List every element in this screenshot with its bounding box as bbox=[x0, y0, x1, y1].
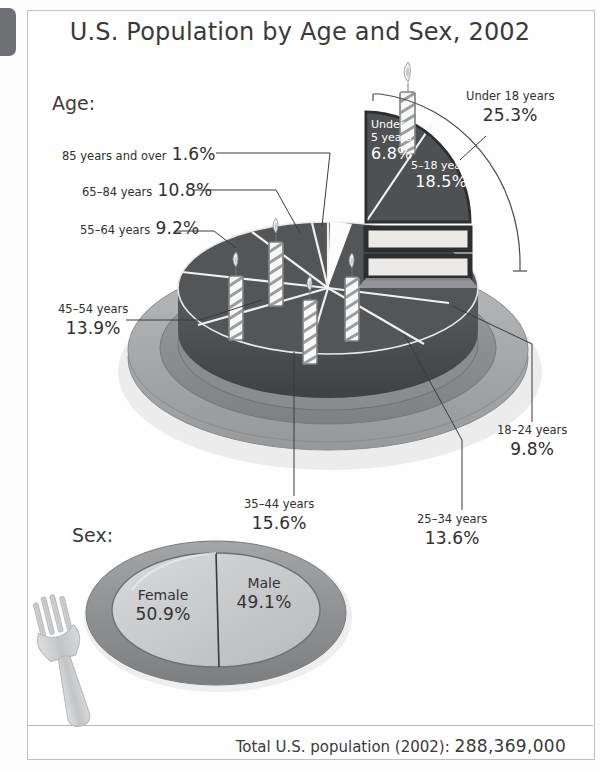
slice-label-5-18-years: 5–18 years 18.5% bbox=[411, 160, 471, 191]
pie-label: Female bbox=[118, 587, 208, 604]
slice-label-line2: 5 years bbox=[371, 132, 412, 145]
page-title: U.S. Population by Age and Sex, 2002 bbox=[0, 18, 600, 46]
total-label: Total U.S. population (2002): bbox=[236, 738, 450, 756]
page-root: U.S. Population by Age and Sex, 2002 Age… bbox=[0, 0, 600, 772]
pie-label-male: Male 49.1% bbox=[222, 575, 306, 612]
callout-85-years-and-over: 85 years and over 1.6% bbox=[62, 144, 216, 165]
sex-section-label: Sex: bbox=[72, 524, 113, 546]
callout-label: 45–54 years bbox=[58, 303, 128, 317]
callout-value: 25.3% bbox=[466, 105, 554, 125]
callout-35-44-years: 35–44 years 15.6% bbox=[244, 498, 314, 533]
callout-label: 18–24 years bbox=[497, 424, 567, 438]
callout-value: 9.2% bbox=[155, 218, 199, 238]
callout-value: 13.9% bbox=[58, 318, 128, 338]
slice-value: 18.5% bbox=[411, 173, 471, 192]
callout-45-54-years: 45–54 years 13.9% bbox=[58, 303, 128, 338]
callout-value: 15.6% bbox=[244, 513, 314, 533]
callout-label: 25–34 years bbox=[417, 513, 487, 527]
callout-label: 35–44 years bbox=[244, 498, 314, 512]
pie-value: 50.9% bbox=[118, 604, 208, 624]
callout-label: 85 years and over bbox=[62, 149, 167, 163]
total-population-line: Total U.S. population (2002): 288,369,00… bbox=[236, 736, 566, 756]
age-section-label: Age: bbox=[52, 92, 95, 114]
slice-label-under-5-years: Under 5 years 6.8% bbox=[371, 119, 412, 163]
callout-label: Under 18 years bbox=[466, 90, 554, 104]
callout-value: 1.6% bbox=[172, 144, 216, 164]
footer-divider bbox=[27, 725, 593, 726]
pie-label: Male bbox=[222, 575, 306, 592]
pie-label-female: Female 50.9% bbox=[118, 587, 208, 624]
callout-18-24-years: 18–24 years 9.8% bbox=[497, 424, 567, 459]
callout-55-64-years: 55–64 years 9.2% bbox=[80, 218, 199, 239]
slice-label: 5–18 years bbox=[411, 160, 471, 173]
pie-value: 49.1% bbox=[222, 592, 306, 612]
callout-label: 65–84 years bbox=[82, 185, 152, 199]
callout-under-18-years: Under 18 years 25.3% bbox=[466, 90, 554, 125]
callout-label: 55–64 years bbox=[80, 223, 150, 237]
callout-value: 9.8% bbox=[497, 439, 567, 459]
callout-value: 10.8% bbox=[157, 180, 212, 200]
callout-65-84-years: 65–84 years 10.8% bbox=[82, 180, 212, 201]
slice-label-line1: Under bbox=[371, 119, 412, 132]
total-value: 288,369,000 bbox=[455, 736, 566, 756]
callout-25-34-years: 25–34 years 13.6% bbox=[417, 513, 487, 548]
callout-value: 13.6% bbox=[417, 528, 487, 548]
slice-value: 6.8% bbox=[371, 145, 412, 164]
